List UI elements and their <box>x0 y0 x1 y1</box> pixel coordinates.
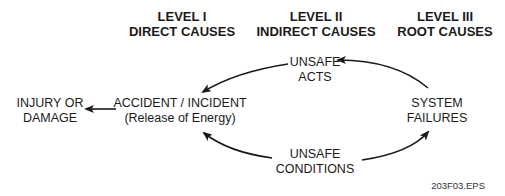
node-unsafe-conditions-line1: UNSAFE <box>276 147 354 162</box>
level-1-header: LEVEL I DIRECT CAUSES <box>129 9 235 39</box>
level-1-subtitle: DIRECT CAUSES <box>129 24 235 39</box>
level-3-title: LEVEL III <box>397 9 492 24</box>
node-injury-line1: INJURY OR <box>17 96 84 111</box>
node-injury-line2: DAMAGE <box>17 111 84 126</box>
figure-id: 203F03.EPS <box>431 180 485 191</box>
node-system-failures: SYSTEM FAILURES <box>407 96 467 126</box>
node-unsafe-conditions: UNSAFE CONDITIONS <box>276 147 354 177</box>
node-system-failures-line1: SYSTEM <box>407 96 467 111</box>
arrow-conditions-to-accident <box>204 133 272 158</box>
node-accident-line1: ACCIDENT / INCIDENT <box>113 96 246 111</box>
level-3-header: LEVEL III ROOT CAUSES <box>397 9 492 39</box>
node-system-failures-line2: FAILURES <box>407 111 467 126</box>
arrow-acts-to-accident <box>203 64 288 92</box>
arrow-system-to-acts <box>338 60 428 88</box>
node-injury: INJURY OR DAMAGE <box>17 96 84 126</box>
level-3-subtitle: ROOT CAUSES <box>397 24 492 39</box>
level-2-title: LEVEL II <box>256 9 375 24</box>
level-2-header: LEVEL II INDIRECT CAUSES <box>256 9 375 39</box>
node-unsafe-acts-line1: UNSAFE <box>290 55 341 70</box>
level-2-subtitle: INDIRECT CAUSES <box>256 24 375 39</box>
node-unsafe-acts-line2: ACTS <box>290 70 341 85</box>
node-accident: ACCIDENT / INCIDENT (Release of Energy) <box>113 96 246 126</box>
node-unsafe-acts: UNSAFE ACTS <box>290 55 341 85</box>
level-1-title: LEVEL I <box>129 9 235 24</box>
node-accident-line2: (Release of Energy) <box>113 111 246 126</box>
node-unsafe-conditions-line2: CONDITIONS <box>276 162 354 177</box>
arrow-conditions-to-system <box>362 132 428 160</box>
